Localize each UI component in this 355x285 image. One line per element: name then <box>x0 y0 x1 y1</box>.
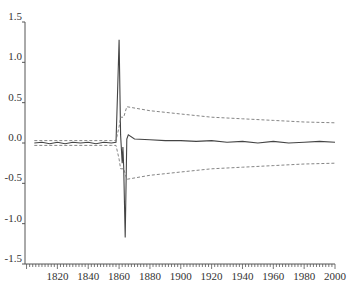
y-tick-label: 1.0 <box>8 50 22 62</box>
y-tick-label: 0.0 <box>8 131 22 143</box>
y-tick-label: -0.5 <box>5 171 23 183</box>
x-tick-label: 1980 <box>293 270 316 282</box>
x-tick-label: 1920 <box>201 270 224 282</box>
response-line <box>34 40 335 238</box>
plot-area <box>34 40 335 238</box>
y-tick-label: -1.0 <box>5 212 23 224</box>
y-tick-label: -1.5 <box>5 252 23 264</box>
upper-band-line <box>34 107 335 141</box>
axes: -1.5-1.0-0.50.00.51.01.51820184018601880… <box>5 10 347 282</box>
x-tick-label: 1960 <box>262 270 285 282</box>
x-tick-label: 1900 <box>170 270 193 282</box>
x-tick-label: 1820 <box>46 270 69 282</box>
x-tick-label: 1940 <box>231 270 254 282</box>
y-tick-label: 0.5 <box>8 91 22 103</box>
line-chart: -1.5-1.0-0.50.00.51.01.51820184018601880… <box>0 0 355 285</box>
lower-band-line <box>34 145 335 179</box>
x-tick-label: 1860 <box>108 270 131 282</box>
x-tick-label: 1840 <box>77 270 100 282</box>
y-tick-label: 1.5 <box>8 10 22 22</box>
x-tick-label: 2000 <box>324 270 347 282</box>
x-tick-label: 1880 <box>139 270 162 282</box>
